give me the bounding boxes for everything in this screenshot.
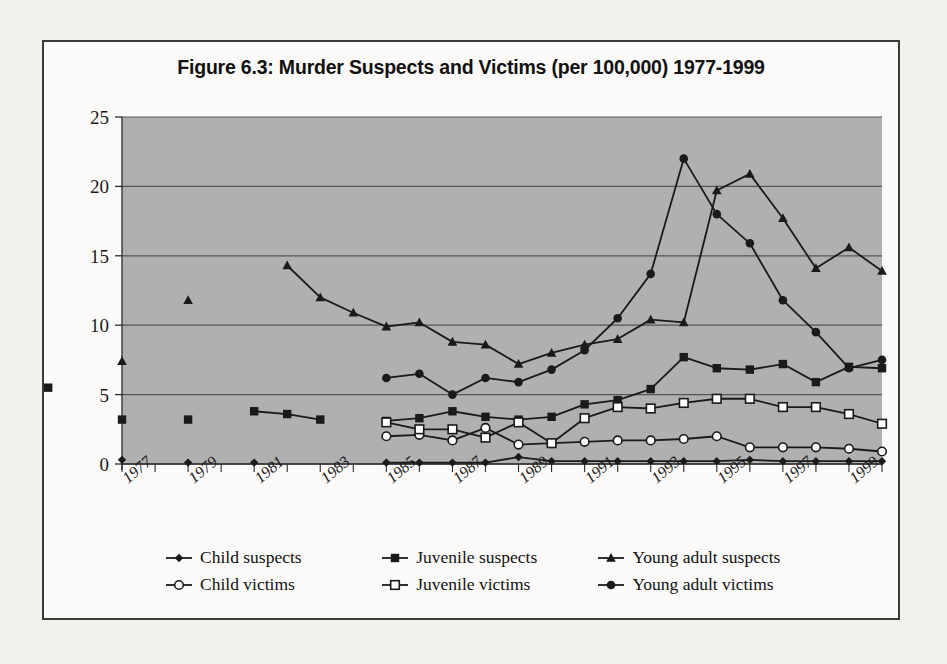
data-point-marker bbox=[547, 365, 556, 374]
data-point-marker bbox=[646, 270, 655, 279]
legend-label: Young adult victims bbox=[632, 574, 773, 595]
data-point-marker bbox=[580, 437, 589, 446]
data-point-marker bbox=[712, 210, 721, 219]
legend-item-child-suspects[interactable]: Child suspects bbox=[122, 547, 380, 568]
line-chart: 0510152025197719791981198319851987198919… bbox=[44, 42, 902, 542]
filled-triangle-icon bbox=[596, 551, 626, 565]
data-point-marker bbox=[845, 444, 854, 453]
data-point-marker bbox=[481, 424, 490, 433]
data-point-marker bbox=[415, 425, 424, 434]
data-point-marker bbox=[746, 239, 755, 248]
legend-row-victims: Child victims Juvenile victims Young adu… bbox=[122, 574, 822, 595]
data-point-marker bbox=[448, 390, 457, 399]
open-square-icon bbox=[380, 578, 410, 592]
chart-plot-area: 0510152025197719791981198319851987198919… bbox=[44, 42, 902, 622]
data-point-marker bbox=[118, 415, 126, 423]
data-point-marker bbox=[878, 364, 886, 372]
data-point-marker bbox=[175, 580, 184, 589]
data-point-marker bbox=[415, 414, 423, 422]
figure-frame: Figure 6.3: Murder Suspects and Victims … bbox=[42, 40, 900, 620]
data-point-marker bbox=[845, 364, 854, 373]
data-point-marker bbox=[481, 374, 490, 383]
legend-label: Juvenile suspects bbox=[416, 547, 537, 568]
data-point-marker bbox=[779, 360, 787, 368]
data-point-marker bbox=[680, 353, 688, 361]
legend-item-juvenile-suspects[interactable]: Juvenile suspects bbox=[380, 547, 596, 568]
data-point-marker bbox=[679, 399, 688, 408]
data-point-marker bbox=[175, 553, 183, 561]
data-point-marker bbox=[382, 374, 391, 383]
data-point-marker bbox=[448, 436, 457, 445]
data-point-marker bbox=[679, 154, 688, 163]
legend-item-juvenile-victims[interactable]: Juvenile victims bbox=[380, 574, 596, 595]
data-point-marker bbox=[613, 314, 622, 323]
data-point-marker bbox=[481, 413, 489, 421]
legend-label: Child suspects bbox=[200, 547, 302, 568]
legend-label: Juvenile victims bbox=[416, 574, 530, 595]
data-point-marker bbox=[712, 432, 721, 441]
legend-label: Young adult suspects bbox=[632, 547, 780, 568]
data-point-marker bbox=[415, 369, 424, 378]
legend-item-child-victims[interactable]: Child victims bbox=[122, 574, 380, 595]
data-point-marker bbox=[316, 415, 324, 423]
filled-square-icon bbox=[380, 551, 410, 565]
data-point-marker bbox=[713, 364, 721, 372]
data-point-marker bbox=[580, 400, 588, 408]
data-point-marker bbox=[878, 447, 887, 456]
data-point-marker bbox=[448, 425, 457, 434]
data-point-marker bbox=[812, 403, 821, 412]
data-point-marker bbox=[812, 328, 821, 337]
data-point-marker bbox=[514, 418, 523, 427]
data-point-marker bbox=[812, 378, 820, 386]
data-point-marker bbox=[250, 407, 258, 415]
data-point-marker bbox=[812, 443, 821, 452]
data-point-marker bbox=[746, 365, 754, 373]
y-tick-label: 25 bbox=[90, 107, 109, 128]
data-point-marker bbox=[779, 296, 788, 305]
data-point-marker bbox=[878, 419, 887, 428]
data-point-marker bbox=[44, 383, 52, 391]
plot-background bbox=[122, 117, 882, 464]
data-point-marker bbox=[878, 356, 887, 365]
data-point-marker bbox=[481, 433, 490, 442]
data-point-marker bbox=[580, 346, 589, 355]
data-point-marker bbox=[613, 403, 622, 412]
data-point-marker bbox=[382, 432, 391, 441]
y-tick-label: 20 bbox=[90, 176, 109, 197]
filled-circle-icon bbox=[596, 578, 626, 592]
y-tick-label: 10 bbox=[90, 315, 109, 336]
y-tick-label: 15 bbox=[90, 246, 109, 267]
data-point-marker bbox=[646, 436, 655, 445]
data-point-marker bbox=[514, 378, 523, 387]
open-circle-icon bbox=[164, 578, 194, 592]
data-point-marker bbox=[712, 394, 721, 403]
legend-item-young-adult-suspects[interactable]: Young adult suspects bbox=[596, 547, 822, 568]
data-point-marker bbox=[448, 407, 456, 415]
data-point-marker bbox=[779, 443, 788, 452]
data-point-marker bbox=[547, 439, 556, 448]
data-point-marker bbox=[391, 553, 399, 561]
legend-label: Child victims bbox=[200, 574, 295, 595]
data-point-marker bbox=[283, 410, 291, 418]
data-point-marker bbox=[646, 404, 655, 413]
legend-item-young-adult-victims[interactable]: Young adult victims bbox=[596, 574, 822, 595]
y-tick-label: 5 bbox=[100, 385, 110, 406]
data-point-marker bbox=[613, 436, 622, 445]
data-point-marker bbox=[580, 414, 589, 423]
chart-legend: Child suspects Juvenile suspects Young a… bbox=[122, 547, 822, 601]
data-point-marker bbox=[779, 403, 788, 412]
data-point-marker bbox=[845, 410, 854, 419]
filled-diamond-icon bbox=[164, 551, 194, 565]
data-point-marker bbox=[391, 580, 400, 589]
data-point-marker bbox=[679, 435, 688, 444]
data-point-marker bbox=[184, 415, 192, 423]
data-point-marker bbox=[547, 413, 555, 421]
legend-row-suspects: Child suspects Juvenile suspects Young a… bbox=[122, 547, 822, 568]
data-point-marker bbox=[646, 385, 654, 393]
data-point-marker bbox=[514, 440, 523, 449]
data-point-marker bbox=[382, 418, 391, 427]
data-point-marker bbox=[746, 394, 755, 403]
data-point-marker bbox=[746, 443, 755, 452]
y-tick-label: 0 bbox=[100, 454, 110, 475]
data-point-marker bbox=[607, 580, 616, 589]
